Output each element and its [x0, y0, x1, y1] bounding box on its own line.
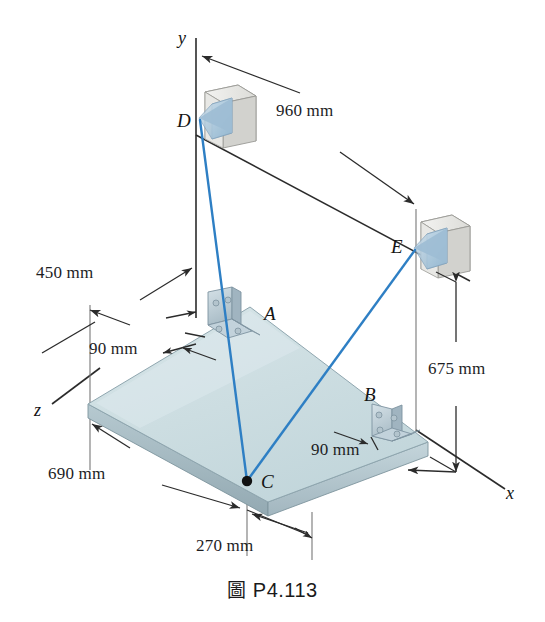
plate-edge-callout — [408, 470, 456, 472]
dimension-450-arrow-left — [90, 310, 196, 325]
point-label-a: A — [264, 303, 276, 325]
dimension-label-270: 270 mm — [196, 536, 253, 556]
wall-anchor-d — [199, 85, 256, 148]
axis-label-x: x — [506, 483, 514, 504]
axis-label-z: z — [34, 400, 41, 421]
dimension-label-90-b: 90 mm — [311, 440, 360, 460]
axis-z — [52, 368, 100, 404]
figure-caption-prefix: 圖 — [227, 579, 247, 601]
dimension-label-960: 960 mm — [276, 101, 333, 121]
point-label-e: E — [391, 236, 403, 258]
point-label-b: B — [364, 384, 376, 406]
dimension-label-450: 450 mm — [36, 263, 93, 283]
wall-anchor-e — [414, 215, 470, 278]
dimension-label-675: 675 mm — [428, 359, 485, 379]
point-c-marker — [242, 476, 252, 486]
point-label-c: C — [261, 471, 274, 493]
point-label-d: D — [177, 110, 191, 132]
dimension-270-leader — [247, 510, 312, 538]
figure-caption-id: P4.113 — [253, 579, 318, 601]
dimension-label-90-a: 90 mm — [89, 339, 138, 359]
figure-caption: 圖P4.113 — [0, 575, 545, 602]
dimension-label-690: 690 mm — [48, 464, 105, 484]
figure-root: y x z A B C D E 960 mm 450 mm 675 mm 690… — [0, 0, 545, 622]
axis-label-y: y — [178, 28, 186, 49]
axis-x — [416, 430, 505, 489]
